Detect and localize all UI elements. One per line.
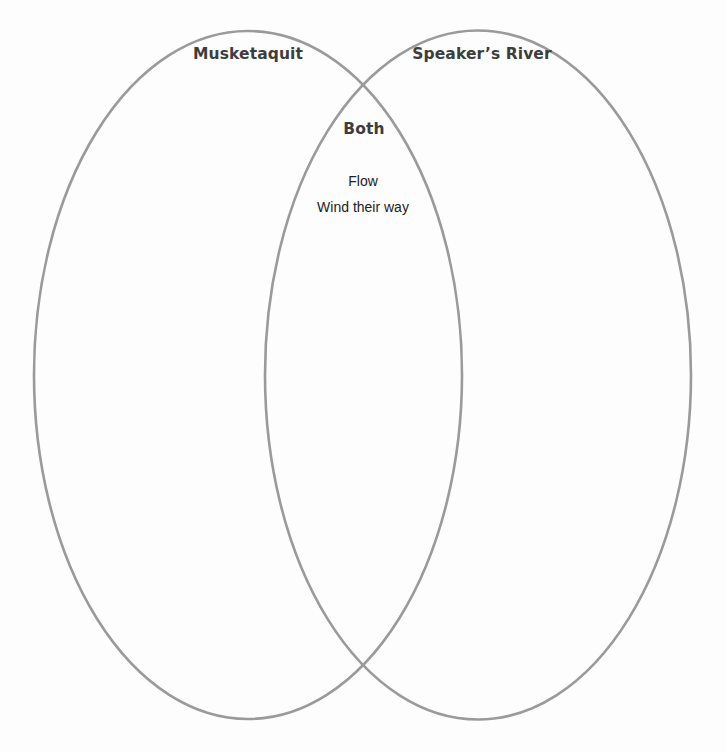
- intersection-label: Both: [343, 120, 384, 138]
- right-circle-label: Speaker’s River: [412, 45, 551, 63]
- venn-diagram: Musketaquit Speaker’s River Both Flow Wi…: [0, 0, 727, 752]
- left-circle-label: Musketaquit: [193, 45, 303, 63]
- venn-shapes: [0, 0, 727, 752]
- intersection-item: Flow: [348, 173, 378, 189]
- intersection-item: Wind their way: [317, 199, 409, 215]
- right-circle-speakers-river: [265, 31, 691, 720]
- left-circle-musketaquit: [34, 31, 462, 719]
